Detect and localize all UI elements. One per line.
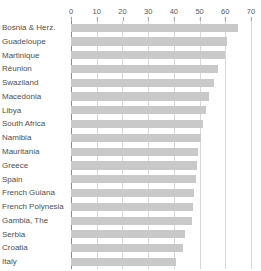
bar-row bbox=[71, 200, 251, 214]
bar bbox=[71, 244, 183, 252]
bar-row bbox=[71, 255, 251, 269]
x-axis-tick: 40 bbox=[170, 8, 178, 16]
category-label: Libya bbox=[2, 104, 65, 118]
bar-row bbox=[71, 90, 251, 104]
category-label: Réunion bbox=[2, 62, 65, 76]
gridline bbox=[251, 21, 252, 269]
bar-row bbox=[71, 186, 251, 200]
category-label: French Guiana bbox=[2, 186, 65, 200]
bar bbox=[71, 258, 176, 266]
bar-row bbox=[71, 62, 251, 76]
category-label: Guadeloupe bbox=[2, 35, 65, 49]
bar-row bbox=[71, 173, 251, 187]
bar bbox=[71, 148, 198, 156]
x-axis-tick: 60 bbox=[221, 8, 229, 16]
x-axis-tick-label: 60 bbox=[221, 8, 229, 16]
category-label: Macedonia bbox=[2, 90, 65, 104]
x-axis-tick-label: 50 bbox=[195, 8, 203, 16]
bar bbox=[71, 203, 193, 211]
bar bbox=[71, 79, 214, 87]
bar-row bbox=[71, 241, 251, 255]
bar bbox=[71, 230, 185, 238]
bar-row bbox=[71, 131, 251, 145]
category-label: Croatia bbox=[2, 241, 65, 255]
x-axis-tick: 10 bbox=[93, 8, 101, 16]
x-axis-tick-label: 40 bbox=[170, 8, 178, 16]
bar-row bbox=[71, 228, 251, 242]
bar bbox=[71, 65, 218, 73]
bar-row bbox=[71, 214, 251, 228]
bar-row bbox=[71, 49, 251, 63]
category-label: French Polynesia bbox=[2, 200, 65, 214]
bar-row bbox=[71, 159, 251, 173]
category-label: Gambia, The bbox=[2, 214, 65, 228]
category-label: Bosnia & Herz. bbox=[2, 21, 65, 35]
category-label: Mauritania bbox=[2, 145, 65, 159]
bar-row bbox=[71, 117, 251, 131]
x-axis-tick-label: 0 bbox=[69, 8, 73, 16]
bar bbox=[71, 37, 227, 45]
horizontal-bar-chart: 010203040506070 Bosnia & Herz.Guadeloupe… bbox=[0, 0, 261, 271]
category-label: Martinique bbox=[2, 49, 65, 63]
bar bbox=[71, 134, 201, 142]
bar bbox=[71, 92, 209, 100]
bar bbox=[71, 189, 194, 197]
bar-row bbox=[71, 76, 251, 90]
x-axis-tick-label: 30 bbox=[144, 8, 152, 16]
category-axis-labels: Bosnia & Herz.GuadeloupeMartiniqueRéunio… bbox=[0, 21, 68, 269]
bar-row bbox=[71, 21, 251, 35]
x-axis-tick: 70 bbox=[247, 8, 255, 16]
bar bbox=[71, 175, 196, 183]
bar bbox=[71, 120, 203, 128]
bar-row bbox=[71, 145, 251, 159]
x-axis-tick-label: 20 bbox=[118, 8, 126, 16]
plot-area bbox=[71, 21, 251, 269]
x-axis-tick: 50 bbox=[195, 8, 203, 16]
x-axis-tick: 20 bbox=[118, 8, 126, 16]
category-label: South Africa bbox=[2, 117, 65, 131]
x-axis-tick-label: 70 bbox=[247, 8, 255, 16]
bar-row bbox=[71, 35, 251, 49]
x-axis: 010203040506070 bbox=[71, 8, 251, 21]
bar bbox=[71, 24, 238, 32]
x-axis-tick: 30 bbox=[144, 8, 152, 16]
category-label: Namibia bbox=[2, 131, 65, 145]
category-label: Greece bbox=[2, 159, 65, 173]
bar bbox=[71, 106, 206, 114]
category-label: Italy bbox=[2, 255, 65, 269]
bar-series bbox=[71, 21, 251, 269]
x-axis-tick-label: 10 bbox=[93, 8, 101, 16]
x-axis-tick: 0 bbox=[69, 8, 73, 16]
category-label: Serbia bbox=[2, 228, 65, 242]
bar bbox=[71, 217, 192, 225]
category-label: Spain bbox=[2, 173, 65, 187]
bar-row bbox=[71, 104, 251, 118]
category-label: Swaziland bbox=[2, 76, 65, 90]
bar bbox=[71, 161, 197, 169]
bar bbox=[71, 51, 225, 59]
